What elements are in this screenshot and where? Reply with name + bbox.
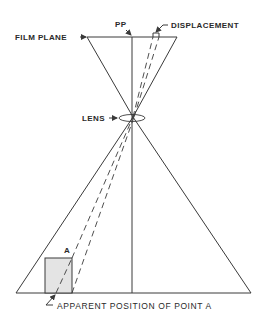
film-plane-label: FILM PLANE [15, 33, 67, 42]
point-a-label: A [64, 246, 70, 255]
image-ray-top [133, 37, 153, 117]
object-cone-right-edge [133, 117, 251, 293]
ray-base-of-a [72, 117, 134, 293]
displacement-bracket [153, 33, 159, 37]
displacement-pointer-icon [156, 25, 163, 32]
apparent-position-pointer-icon [46, 295, 55, 305]
object-cone-left-edge [16, 117, 133, 293]
pp-pointer-icon [126, 30, 131, 35]
displacement-label: DISPLACEMENT [171, 21, 239, 30]
image-cone-left-edge [87, 37, 133, 117]
lens-label: LENS [82, 114, 105, 123]
lens-displacement-diagram: FILM PLANE PP DISPLACEMENT LENS A APPARE… [0, 0, 264, 318]
ray-top-of-a [72, 117, 133, 258]
pp-label: PP [115, 20, 127, 29]
apparent-position-label: APPARENT POSITION OF POINT A [57, 301, 212, 311]
